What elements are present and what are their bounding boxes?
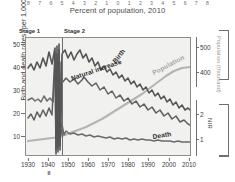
y-tick-label: 40: [13, 64, 20, 71]
tick-mark: [148, 158, 149, 161]
y-tick-label: 30: [13, 87, 20, 94]
y-tick-label: 20: [13, 110, 20, 117]
tick-mark: [21, 113, 25, 114]
chart-figure: 8 7 6 5 4 3 2 1 0 1 2 3 4 5 6 7 8 Percen…: [0, 0, 235, 182]
x-tick-label: 1960: [81, 161, 95, 168]
x-tick-label: 1940: [41, 161, 55, 168]
y-tick-label: 400: [200, 69, 211, 76]
y-tick-label: 10: [13, 133, 20, 140]
x-tick-label: 2000: [162, 161, 176, 168]
y-tick-label: 1: [200, 136, 204, 143]
x-tick-1930: 1930: [21, 161, 35, 168]
x-tick-label: 1970: [101, 161, 115, 168]
x-tick-label: 1930: [21, 161, 35, 168]
chart-curves: [26, 38, 191, 156]
tick-mark: [169, 158, 170, 161]
x-tick-label: 1980: [121, 161, 135, 168]
corner-bracket: [219, 148, 229, 157]
stage-divider-line: [62, 38, 63, 155]
tick-mark: [108, 158, 109, 161]
x-tick-2000: 2000: [162, 161, 176, 168]
x-tick-1940: 1940: [41, 161, 55, 168]
y-axis-right-nir-line: [196, 100, 197, 156]
x-tick-1980: 1980: [121, 161, 135, 168]
y-tick-right-500: 500: [200, 44, 211, 51]
tick-mark: [21, 136, 25, 137]
y-axis-right-population-line: [196, 37, 197, 87]
y-tick-left-40: 40: [6, 64, 20, 71]
x-tick-1990: 1990: [141, 161, 155, 168]
tick-mark: [196, 114, 200, 115]
tick-mark: [48, 158, 49, 161]
population-pyramid-axis-strip: 8 7 6 5 4 3 2 1 0 1 2 3 4 5 6 7 8 Percen…: [0, 0, 235, 20]
plot-area: [25, 37, 191, 156]
tick-mark: [68, 158, 69, 161]
y-axis-right-nir-title: NIR: [207, 118, 213, 129]
x-tick-1970: 1970: [101, 161, 115, 168]
x-tick-1960: 1960: [81, 161, 95, 168]
y-tick-left-10: 10: [6, 133, 20, 140]
pyramid-axis-caption: Percent of population, 2010: [0, 6, 235, 15]
tick-mark: [21, 44, 25, 45]
tick-mark: [88, 158, 89, 161]
x-tick-label: 1990: [141, 161, 155, 168]
tick-mark: [196, 72, 200, 73]
tick-mark: [21, 67, 25, 68]
y-tick-left-30: 30: [6, 87, 20, 94]
y-tick-right-400: 400: [200, 69, 211, 76]
x-tick-2010: 2010: [182, 161, 196, 168]
y-tick-left-20: 20: [6, 110, 20, 117]
y-axis-right-population-title: Population (thousand): [216, 36, 222, 93]
tick-mark: [196, 47, 200, 48]
y-tick-left-50: 50: [6, 41, 20, 48]
y-tick-label: 50: [13, 41, 20, 48]
stage-2-label: Stage 2: [64, 28, 85, 34]
tick-mark: [128, 158, 129, 161]
tick-mark: [189, 158, 190, 161]
x-axis-ticks: 1930 1940 1950 1960 1970 1980 1990 2000 …: [25, 158, 191, 170]
y-tick-right-1: 1: [200, 136, 204, 143]
tick-mark: [196, 139, 200, 140]
y-tick-label: 2: [200, 111, 204, 118]
world-war-two-marker: II: [48, 170, 51, 176]
tick-mark: [21, 90, 25, 91]
y-tick-right-2: 2: [200, 111, 204, 118]
x-tick-label: 1950: [61, 161, 75, 168]
x-tick-label: 2010: [182, 161, 196, 168]
tick-mark: [28, 158, 29, 161]
y-tick-label: 500: [200, 44, 211, 51]
x-tick-1950: 1950: [61, 161, 75, 168]
